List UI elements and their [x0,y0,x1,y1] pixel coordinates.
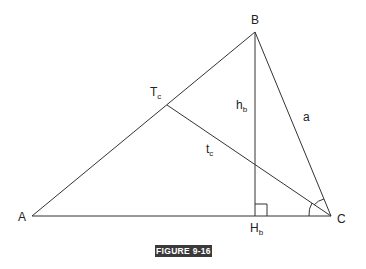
vertex-label-b: B [251,14,259,26]
angle-arc-inner [314,199,324,205]
vertex-label-c: C [337,213,346,225]
figure-canvas: B A C Tc Hb hb tc a FIGURE 9-16 [0,0,366,269]
figure-caption-badge: FIGURE 9-16 [155,245,212,257]
vertex-label-a: A [18,211,26,223]
right-angle-marker [255,204,267,216]
segment-label-a: a [303,111,310,123]
segment-label-hb: hb [236,99,247,114]
side-a-BC [255,32,331,216]
point-label-hb: Hb [250,222,263,237]
angle-arc-outer [309,203,312,216]
point-label-tc: Tc [150,86,161,101]
segment-label-tc: tc [206,143,213,158]
side-c-AB [32,32,255,216]
triangle-diagram [0,0,366,269]
